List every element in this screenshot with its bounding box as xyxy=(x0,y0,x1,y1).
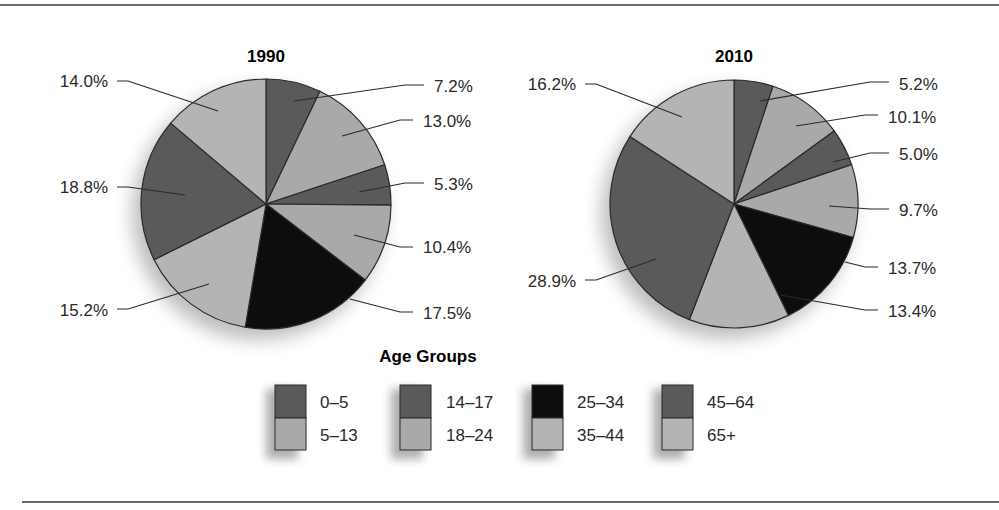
leader-line xyxy=(845,262,878,267)
label-0-5: 5.2% xyxy=(899,75,938,94)
label-25-34: 17.5% xyxy=(423,304,471,323)
legend-group-3: 25–34 35–44 xyxy=(523,385,624,459)
legend-label-65plus: 65+ xyxy=(707,426,736,445)
legend-label-5-13: 5–13 xyxy=(320,426,358,445)
legend-group-4: 45–64 65+ xyxy=(653,385,754,459)
label-5-13: 13.0% xyxy=(423,112,471,131)
legend-label-35-44: 35–44 xyxy=(577,426,624,445)
legend-swatch-18-24 xyxy=(400,418,431,450)
label-45-64: 28.9% xyxy=(528,272,576,291)
label-35-44: 13.4% xyxy=(888,302,936,321)
legend-label-0-5: 0–5 xyxy=(320,393,348,412)
label-5-13: 10.1% xyxy=(888,108,936,127)
label-18-24: 9.7% xyxy=(899,201,938,220)
label-14-17: 5.0% xyxy=(899,145,938,164)
legend-swatch-35-44 xyxy=(532,418,563,450)
legend-swatch-45-64 xyxy=(662,385,693,418)
leader-line xyxy=(350,299,413,312)
label-65plus: 16.2% xyxy=(528,75,576,94)
legend-label-45-64: 45–64 xyxy=(707,393,754,412)
legend-swatch-5-13 xyxy=(275,418,306,450)
legend-label-25-34: 25–34 xyxy=(577,393,624,412)
pie-slices-1990 xyxy=(141,79,391,329)
legend-group-1: 0–5 5–13 xyxy=(266,385,358,459)
legend-swatch-0-5 xyxy=(275,385,306,418)
label-14-17: 5.3% xyxy=(434,175,473,194)
pie-slices-2010 xyxy=(610,80,858,328)
label-45-64: 18.8% xyxy=(60,178,108,197)
label-35-44: 15.2% xyxy=(60,301,108,320)
pie-2010: 2010 16.2% 5.2% 10.1% 5.0% 9.7% 28.9% 13… xyxy=(528,47,938,339)
label-25-34: 13.7% xyxy=(888,259,936,278)
legend: Age Groups 0–5 5–13 14–17 18–24 25–34 35… xyxy=(266,347,754,459)
legend-swatch-65plus xyxy=(662,418,693,450)
pie-1990: 1990 14.0% 7.2% 13.0% 5.3% 18.8% 10.4% 1… xyxy=(60,47,473,340)
pie-title-2010: 2010 xyxy=(715,47,753,66)
pie-title-1990: 1990 xyxy=(247,47,285,66)
label-65plus: 14.0% xyxy=(60,72,108,91)
legend-group-2: 14–17 18–24 xyxy=(391,385,493,459)
legend-label-18-24: 18–24 xyxy=(446,426,493,445)
legend-title: Age Groups xyxy=(379,347,476,366)
legend-label-14-17: 14–17 xyxy=(446,393,493,412)
pie-charts-figure: 1990 14.0% 7.2% 13.0% 5.3% 18.8% 10.4% 1… xyxy=(0,0,999,510)
label-18-24: 10.4% xyxy=(423,238,471,257)
legend-swatch-25-34 xyxy=(532,385,563,418)
label-0-5: 7.2% xyxy=(434,77,473,96)
legend-swatch-14-17 xyxy=(400,385,431,418)
